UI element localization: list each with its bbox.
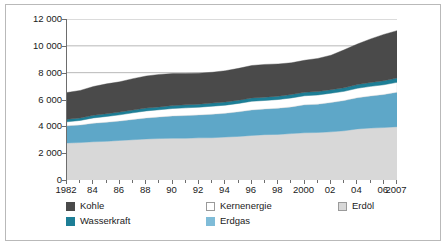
y-axis-tick-mark xyxy=(62,19,66,20)
y-axis-tick-label: 2 000 xyxy=(8,148,62,158)
x-axis-minor-tick-mark xyxy=(106,180,107,183)
y-axis-tick-label: 6 000 xyxy=(8,95,62,105)
legend-item-label: Erdöl xyxy=(352,201,374,211)
y-axis-tick-label: 8 000 xyxy=(8,68,62,78)
legend-item[interactable]: Wasserkraft xyxy=(66,216,130,226)
x-axis-tick-label: 02 xyxy=(325,184,336,195)
x-axis-tick-mark xyxy=(277,180,278,184)
x-axis-tick-mark xyxy=(356,180,357,184)
y-axis-tick-mark xyxy=(62,153,66,154)
x-axis-minor-tick-mark xyxy=(343,180,344,183)
legend-item-label: Kohle xyxy=(80,201,104,211)
x-axis-minor-tick-mark xyxy=(317,180,318,183)
x-axis-tick-label: 98 xyxy=(272,184,283,195)
y-axis-tick-label: 10 000 xyxy=(8,41,62,51)
y-axis-tick-label: 12 000 xyxy=(8,14,62,24)
x-axis-minor-tick-mark xyxy=(264,180,265,183)
x-axis-tick-mark xyxy=(304,180,305,184)
chart-figure: 02 0004 0006 0008 00010 00012 000 198284… xyxy=(0,0,446,246)
x-axis-minor-tick-mark xyxy=(370,180,371,183)
x-axis-tick-mark xyxy=(66,180,67,184)
y-axis-tick-mark xyxy=(62,73,66,74)
x-axis-tick-label: 88 xyxy=(140,184,151,195)
x-axis-tick-mark xyxy=(396,180,397,184)
y-axis-tick-mark xyxy=(62,180,66,181)
legend-item-label: Erdgas xyxy=(220,216,250,226)
y-axis-tick-mark xyxy=(62,46,66,47)
x-axis-minor-tick-mark xyxy=(211,180,212,183)
plot-area xyxy=(66,19,396,180)
x-axis-tick-mark xyxy=(224,180,225,184)
legend-swatch-icon xyxy=(66,202,75,211)
y-axis: 02 0004 0006 0008 00010 00012 000 xyxy=(4,0,62,246)
x-axis-tick-label: 04 xyxy=(351,184,362,195)
x-axis-minor-tick-mark xyxy=(238,180,239,183)
x-axis-tick-label: 2000 xyxy=(293,184,314,195)
legend-swatch-icon xyxy=(206,217,215,226)
x-axis-tick-label: 1982 xyxy=(55,184,76,195)
legend-swatch-icon xyxy=(66,217,75,226)
x-axis-tick-label: 90 xyxy=(166,184,177,195)
legend-item-label: Wasserkraft xyxy=(80,216,130,226)
chart-legend: KohleKernenergieErdölWasserkraftErdgas xyxy=(66,201,416,235)
legend-item[interactable]: Erdöl xyxy=(338,201,374,211)
legend-item[interactable]: Kernenergie xyxy=(206,201,272,211)
x-axis-minor-tick-mark xyxy=(132,180,133,183)
x-axis-tick-mark xyxy=(172,180,173,184)
x-axis-tick-label: 84 xyxy=(87,184,98,195)
y-axis-tick-mark xyxy=(62,100,66,101)
legend-swatch-icon xyxy=(338,202,347,211)
stacked-area-svg xyxy=(67,19,397,180)
x-axis-tick-label: 86 xyxy=(114,184,125,195)
legend-item[interactable]: Kohle xyxy=(66,201,104,211)
x-axis-tick-mark xyxy=(198,180,199,184)
x-axis-tick-mark xyxy=(330,180,331,184)
x-axis-minor-tick-mark xyxy=(185,180,186,183)
x-axis-tick-label: 2007 xyxy=(385,184,406,195)
y-axis-tick-label: 4 000 xyxy=(8,121,62,131)
x-axis-minor-tick-mark xyxy=(79,180,80,183)
legend-swatch-icon xyxy=(206,202,215,211)
x-axis-tick-mark xyxy=(383,180,384,184)
x-axis-tick-mark xyxy=(251,180,252,184)
x-axis-tick-label: 92 xyxy=(193,184,204,195)
legend-item[interactable]: Erdgas xyxy=(206,216,250,226)
x-axis-tick-label: 94 xyxy=(219,184,230,195)
x-axis-minor-tick-mark xyxy=(290,180,291,183)
x-axis-tick-mark xyxy=(119,180,120,184)
x-axis-tick-label: 96 xyxy=(246,184,257,195)
x-axis-minor-tick-mark xyxy=(158,180,159,183)
x-axis-tick-mark xyxy=(92,180,93,184)
y-axis-tick-mark xyxy=(62,126,66,127)
legend-item-label: Kernenergie xyxy=(220,201,272,211)
x-axis-tick-mark xyxy=(145,180,146,184)
y-axis-tick-label: 0 xyxy=(8,175,62,185)
